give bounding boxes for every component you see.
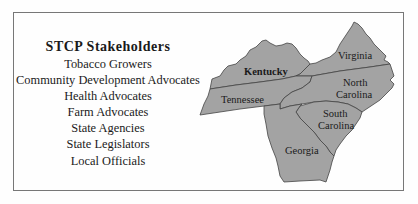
label-north-carolina-2: Carolina [336,89,372,100]
label-kentucky: Kentucky [244,66,289,77]
southeast-states-map: Kentucky Virginia Tennessee North Caroli… [0,0,418,204]
label-south-carolina-1: South [323,108,348,119]
label-north-carolina-1: North [343,77,368,88]
label-georgia: Georgia [285,145,319,156]
label-south-carolina-2: Carolina [318,120,354,131]
label-tennessee: Tennessee [221,94,264,105]
label-virginia: Virginia [338,50,373,61]
